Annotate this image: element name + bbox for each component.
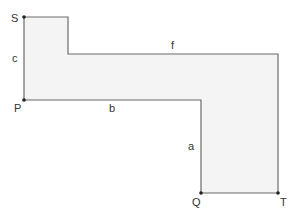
edge-label-f: f: [171, 39, 175, 51]
vertex-label-s: S: [11, 12, 18, 24]
edge-label-b: b: [109, 102, 115, 114]
vertex-q-dot: [199, 191, 203, 195]
l-shape-polygon: [24, 17, 278, 193]
vertex-s-dot: [22, 15, 26, 19]
vertex-label-t: T: [280, 196, 287, 208]
vertex-p-dot: [22, 98, 26, 102]
l-shape-diagram: S P Q T c b f a: [0, 0, 301, 219]
edge-label-c: c: [12, 52, 18, 64]
edge-label-a: a: [188, 140, 195, 152]
diagram-canvas: S P Q T c b f a: [0, 0, 301, 219]
vertex-t-dot: [276, 191, 280, 195]
vertex-label-p: P: [14, 102, 21, 114]
vertex-label-q: Q: [192, 196, 201, 208]
